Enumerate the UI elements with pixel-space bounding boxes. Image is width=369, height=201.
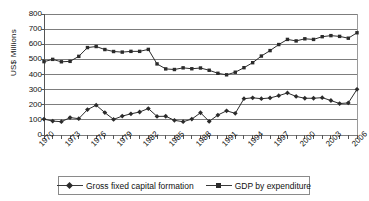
legend-label: GDP by expenditure xyxy=(235,181,311,191)
legend-entry: GDP by expenditure xyxy=(206,181,311,191)
data-point-marker xyxy=(234,71,237,74)
data-point-marker xyxy=(277,43,280,46)
data-point-marker xyxy=(94,45,97,48)
data-point-marker xyxy=(103,48,106,51)
data-point-marker xyxy=(242,66,245,69)
data-point-marker xyxy=(302,96,307,101)
series-gross-fixed-capital-formation xyxy=(42,87,360,124)
data-point-marker xyxy=(251,61,254,64)
data-point-marker xyxy=(173,68,176,71)
data-point-marker xyxy=(86,46,89,49)
data-point-marker xyxy=(181,66,184,69)
data-point-marker xyxy=(355,87,360,92)
data-point-marker xyxy=(147,48,150,51)
diamond-marker-icon xyxy=(57,181,83,190)
data-point-marker xyxy=(60,60,63,63)
data-point-marker xyxy=(190,67,193,70)
data-point-marker xyxy=(286,38,289,41)
data-point-marker xyxy=(303,37,306,40)
data-point-marker xyxy=(338,35,341,38)
data-point-marker xyxy=(329,34,332,37)
data-point-marker xyxy=(163,114,168,119)
data-point-marker xyxy=(260,54,263,57)
data-point-marker xyxy=(276,93,281,98)
data-point-marker xyxy=(164,67,167,70)
data-point-marker xyxy=(242,96,247,101)
data-point-marker xyxy=(68,60,71,63)
legend-entry: Gross fixed capital formation xyxy=(57,181,194,191)
data-point-marker xyxy=(347,37,350,40)
data-point-marker xyxy=(311,96,316,101)
data-point-marker xyxy=(294,39,297,42)
data-point-marker xyxy=(233,111,238,116)
square-marker-icon xyxy=(206,181,232,190)
data-point-marker xyxy=(129,50,132,53)
data-point-marker xyxy=(172,118,177,123)
data-point-marker xyxy=(155,62,158,65)
data-point-marker xyxy=(112,50,115,53)
series-gdp-by-expenditure xyxy=(42,31,358,76)
data-point-marker xyxy=(268,96,273,101)
gridlines xyxy=(44,14,357,135)
data-point-marker xyxy=(268,49,271,52)
data-point-marker xyxy=(320,95,325,100)
data-point-marker xyxy=(285,91,290,96)
data-point-marker xyxy=(250,95,255,100)
data-point-marker xyxy=(207,69,210,72)
data-point-marker xyxy=(312,38,315,41)
data-point-marker xyxy=(321,35,324,38)
data-point-marker xyxy=(121,50,124,53)
data-point-marker xyxy=(42,60,45,63)
data-point-marker xyxy=(51,58,54,61)
data-point-marker xyxy=(77,55,80,58)
data-point-marker xyxy=(199,66,202,69)
chart-legend: Gross fixed capital formationGDP by expe… xyxy=(58,176,310,195)
data-point-marker xyxy=(42,117,47,122)
data-point-marker xyxy=(329,98,334,103)
data-point-marker xyxy=(216,72,219,75)
data-point-marker xyxy=(224,108,229,113)
data-point-marker xyxy=(120,114,125,119)
legend-label: Gross fixed capital formation xyxy=(86,181,194,191)
data-point-marker xyxy=(68,115,73,120)
data-point-marker xyxy=(129,111,134,116)
data-point-marker xyxy=(355,31,358,34)
data-point-marker xyxy=(259,96,264,101)
data-point-marker xyxy=(138,50,141,53)
data-point-marker xyxy=(137,110,142,115)
data-point-marker xyxy=(294,94,299,99)
data-point-marker xyxy=(225,73,228,76)
